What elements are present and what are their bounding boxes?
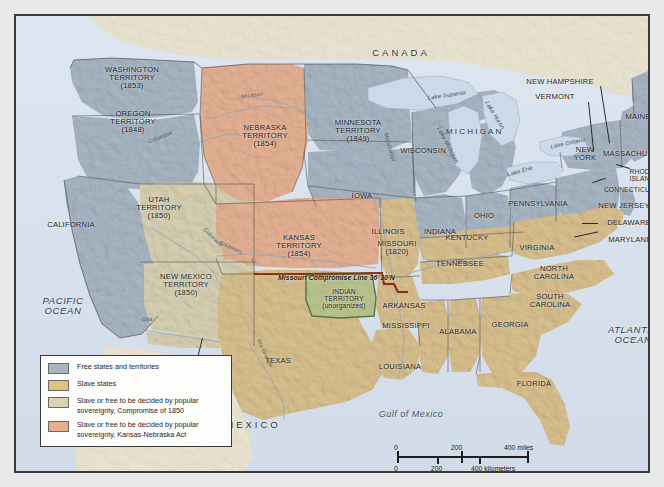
scale-tick-end [527,451,529,463]
scale-tick-km-400 [479,457,481,464]
legend-item-slave: Slave states [48,379,224,391]
legend-label-slave: Slave states [77,379,116,389]
map-legend: Free states and territories Slave states… [40,355,232,447]
legend-swatch-compromise-1850 [48,397,69,408]
scale-km-0: 0 [394,465,398,472]
legend-item-compromise-1850: Slave or free to be decided by popular s… [48,396,224,415]
scale-km-200: 200 [431,465,442,472]
legend-label-kansas-nebraska: Slave or free to be decided by popular s… [77,420,224,439]
scale-tick-0 [397,451,399,463]
legend-swatch-kansas-nebraska [48,421,69,432]
scale-miles-400: 400 miles [504,444,533,451]
legend-item-free: Free states and territories [48,362,224,374]
legend-label-free: Free states and territories [77,362,159,372]
scale-miles-0: 0 [394,444,398,451]
legend-swatch-free [48,363,69,374]
scale-tick-mid [461,451,463,463]
map-frame: WASHINGTON TERRITORY (1853) OREGON TERRI… [14,14,650,473]
indian-territory [306,274,376,318]
legend-label-compromise-1850: Slave or free to be decided by popular s… [77,396,224,415]
legend-item-kansas-nebraska: Slave or free to be decided by popular s… [48,420,224,439]
scale-km-400: 400 kilometers [471,465,515,472]
scale-tick-km-200 [437,457,439,464]
delaware-leader-line [582,223,598,224]
scale-miles-200: 200 [451,444,462,451]
legend-swatch-slave [48,380,69,391]
